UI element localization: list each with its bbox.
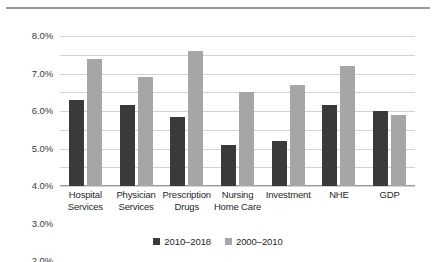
x-axis-tick-label: Hospital Services xyxy=(60,189,111,212)
legend-label: 2010–2018 xyxy=(164,236,211,247)
bar[interactable] xyxy=(272,141,287,186)
bar[interactable] xyxy=(322,105,337,186)
bar-group xyxy=(263,36,314,186)
bar-chart: 8.0%7.0%6.0%5.0%4.0%3.0%2.0%1.0%0.0% Hos… xyxy=(0,0,436,262)
x-axis-tick-label: Investment xyxy=(263,189,314,212)
bar[interactable] xyxy=(239,92,254,186)
bar-group xyxy=(314,36,365,186)
bar-groups xyxy=(60,36,415,186)
x-axis-labels: Hospital ServicesPhysician ServicesPresc… xyxy=(60,189,415,212)
legend-swatch-icon xyxy=(225,238,232,245)
bar-group xyxy=(60,36,111,186)
bar[interactable] xyxy=(290,85,305,186)
legend-item[interactable]: 2000–2010 xyxy=(225,236,283,247)
y-axis-tick-label: 2.0% xyxy=(32,255,53,262)
bar[interactable] xyxy=(340,66,355,186)
y-axis-tick-label: 8.0% xyxy=(32,30,53,41)
y-axis-tick-label: 5.0% xyxy=(32,143,53,154)
bar[interactable] xyxy=(373,111,388,186)
y-axis-tick-label: 6.0% xyxy=(32,105,53,116)
bar-group xyxy=(364,36,415,186)
top-divider-rule xyxy=(6,7,430,9)
legend-swatch-icon xyxy=(153,238,160,245)
bar-group xyxy=(161,36,212,186)
plot-area: 8.0%7.0%6.0%5.0%4.0%3.0%2.0%1.0%0.0% xyxy=(60,36,415,186)
legend-item[interactable]: 2010–2018 xyxy=(153,236,211,247)
y-axis-tick-label: 3.0% xyxy=(32,218,53,229)
bar[interactable] xyxy=(391,115,406,186)
x-axis-tick-label: Physician Services xyxy=(111,189,162,212)
bar[interactable] xyxy=(120,105,135,186)
x-axis-tick-label: GDP xyxy=(364,189,415,212)
bar[interactable] xyxy=(69,100,84,186)
x-axis-tick-label: Nursing Home Care xyxy=(212,189,263,212)
bar[interactable] xyxy=(138,77,153,186)
bar-group xyxy=(111,36,162,186)
bar-group xyxy=(212,36,263,186)
y-axis-tick-label: 4.0% xyxy=(32,180,53,191)
x-axis-tick-label: Prescription Drugs xyxy=(161,189,212,212)
bar[interactable] xyxy=(170,117,185,186)
bar[interactable] xyxy=(87,59,102,187)
chart-legend: 2010–20182000–2010 xyxy=(0,236,436,247)
gridline: 0.0% xyxy=(60,186,415,187)
bar[interactable] xyxy=(188,51,203,186)
x-axis-tick-label: NHE xyxy=(314,189,365,212)
legend-label: 2000–2010 xyxy=(236,236,283,247)
bar[interactable] xyxy=(221,145,236,186)
y-axis-tick-label: 7.0% xyxy=(32,68,53,79)
